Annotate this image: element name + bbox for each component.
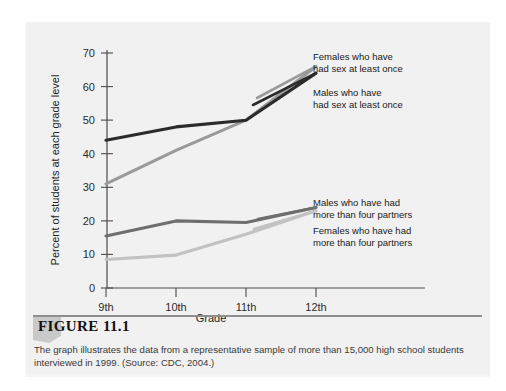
y-axis-tick-labels: 0 10 20 30 40 50 60 70 [83,47,95,294]
annotation-males-four-partners: Males who have had more than four partne… [313,197,413,220]
y-tick-60: 60 [83,81,95,93]
annotation-females-four-partners: Females who have had more than four part… [313,225,413,248]
y-tick-20: 20 [83,215,95,227]
annotation-females-sex-once-line1: Females who have [313,51,393,62]
leader-line-males-sex-once [253,73,316,105]
annotation-males-sex-once-line1: Males who have [313,87,382,98]
annotation-females-four-partners-line2: more than four partners [313,237,413,248]
figure-label: FIGURE 11.1 [38,318,130,335]
y-axis-title: Percent of students at each grade level [49,75,61,266]
annotation-males-four-partners-line2: more than four partners [313,209,413,220]
x-tick-10th: 10th [165,301,186,313]
caption-divider [33,315,482,317]
y-tick-40: 40 [83,148,95,160]
annotation-females-four-partners-line1: Females who have had [313,225,411,236]
y-tick-0: 0 [89,282,95,294]
annotation-males-sex-once-line2: had sex at least once [313,99,403,110]
annotation-females-sex-once: Females who have had sex at least once [313,51,403,74]
y-tick-30: 30 [83,181,95,193]
x-tick-9th: 9th [98,301,113,313]
x-tick-11th: 11th [236,301,257,313]
annotation-females-sex-once-line2: had sex at least once [313,63,403,74]
y-tick-10: 10 [83,248,95,260]
annotation-males-sex-once: Males who have had sex at least once [313,87,403,110]
figure-panel: 0 10 20 30 40 50 60 70 9th [25,22,490,377]
figure-root: 0 10 20 30 40 50 60 70 9th [0,0,506,391]
figure-caption-block: FIGURE 11.1 The graph illustrates the da… [25,315,490,377]
y-tick-70: 70 [83,47,95,59]
x-tick-12th: 12th [305,301,326,313]
x-axis-ticks [106,288,316,297]
series-line-females-four-partners [106,211,316,260]
figure-caption-text: The graph illustrates the data from a re… [34,343,474,369]
y-tick-50: 50 [83,114,95,126]
line-chart: 0 10 20 30 40 50 60 70 9th [25,22,490,322]
annotation-males-four-partners-line1: Males who have had [313,197,400,208]
